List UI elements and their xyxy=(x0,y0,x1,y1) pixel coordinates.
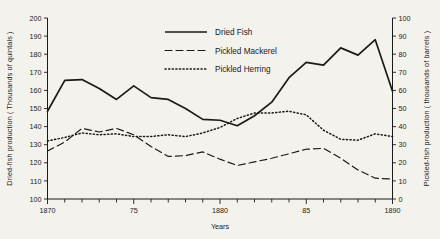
x-axis-title: Years xyxy=(211,222,230,231)
y-axis-right-tick-label: 10 xyxy=(399,177,407,186)
y-axis-right-title: Pickled-fish production ( thousands of b… xyxy=(422,31,431,186)
x-axis-tick-label: 75 xyxy=(130,206,138,215)
y-axis-left-tick-label: 140 xyxy=(30,122,42,131)
y-axis-right-tick-label: 50 xyxy=(399,104,407,113)
x-axis: 1870751880851890 xyxy=(40,199,401,215)
y-axis-left-tick-label: 190 xyxy=(30,32,42,41)
legend-label: Pickled Mackerel xyxy=(215,47,277,56)
y-axis-right-tick-label: 20 xyxy=(399,158,407,167)
x-axis-tick-label: 1890 xyxy=(385,206,401,215)
series-line-pickled-mackerel xyxy=(48,128,393,179)
chart-container: 100110120130140150160170180190200 010203… xyxy=(0,0,440,239)
y-axis-left-tick-label: 170 xyxy=(30,68,42,77)
y-axis-left-tick-label: 110 xyxy=(30,177,41,186)
axis-titles: Dried-fish production ( Thousands of qui… xyxy=(5,31,431,231)
x-axis-tick-label: 85 xyxy=(302,206,310,215)
y-axis-left-tick-label: 100 xyxy=(30,195,42,204)
y-axis-right-tick-label: 90 xyxy=(399,32,407,41)
legend-label: Dried Fish xyxy=(215,28,253,37)
y-axis-right-tick-label: 60 xyxy=(399,86,407,95)
x-axis-tick-label: 1880 xyxy=(212,206,228,215)
y-axis-right-tick-label: 100 xyxy=(399,14,411,23)
series-line-pickled-herring xyxy=(48,111,393,141)
y-axis-left-tick-label: 120 xyxy=(30,158,42,167)
y-axis-left-tick-label: 160 xyxy=(30,86,42,95)
line-chart: 100110120130140150160170180190200 010203… xyxy=(0,0,440,239)
x-axis-tick-label: 1870 xyxy=(40,206,56,215)
y-axis-left-tick-label: 150 xyxy=(30,104,42,113)
legend-label: Pickled Herring xyxy=(215,65,271,74)
chart-legend: Dried FishPickled MackerelPickled Herrin… xyxy=(165,28,277,74)
y-axis-right-tick-label: 70 xyxy=(399,68,407,77)
y-axis-right: 0102030405060708090100 xyxy=(393,14,411,204)
y-axis-right-tick-label: 80 xyxy=(399,50,407,59)
y-axis-left-title: Dried-fish production ( Thousands of qui… xyxy=(5,31,14,185)
y-axis-right-tick-label: 30 xyxy=(399,140,407,149)
y-axis-left-tick-label: 180 xyxy=(30,50,42,59)
data-series-group xyxy=(48,40,393,179)
y-axis-right-tick-label: 40 xyxy=(399,122,407,131)
y-axis-left-tick-label: 130 xyxy=(30,140,42,149)
y-axis-left-tick-label: 200 xyxy=(30,14,42,23)
y-axis-left: 100110120130140150160170180190200 xyxy=(30,14,48,204)
y-axis-right-tick-label: 0 xyxy=(399,195,403,204)
